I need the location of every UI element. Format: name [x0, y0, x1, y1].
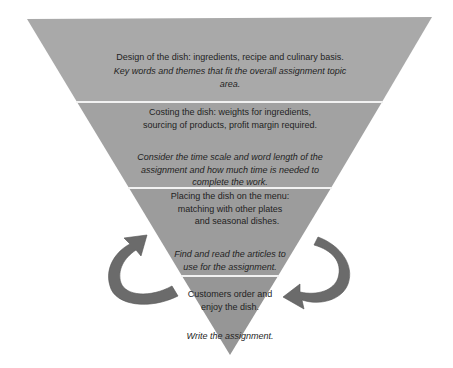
- level-1-note-line: area.: [80, 78, 380, 91]
- level-1-heading: Design of the dish: ingredients, recipe …: [60, 51, 400, 64]
- level-2-note-line: assignment and how much time is needed t…: [100, 164, 360, 177]
- level-4-note: Write the assignment.: [160, 330, 300, 343]
- level-1-note-line: Key words and themes that fit the overal…: [80, 65, 380, 78]
- level-3-note-line: use for the assignment.: [150, 261, 310, 274]
- level-2-heading-line: Costing the dish: weights for ingredient…: [80, 106, 380, 119]
- level-3-heading-line: and seasonal dishes.: [150, 215, 310, 228]
- level-2-heading: Costing the dish: weights for ingredient…: [80, 106, 380, 131]
- level-2-note-line: Consider the time scale and word length …: [100, 151, 360, 164]
- level-3-heading-line: Placing the dish on the menu:: [150, 190, 310, 203]
- level-4-heading-line: enjoy the dish.: [170, 301, 290, 314]
- level-2-heading-line: sourcing of products, profit margin requ…: [80, 119, 380, 132]
- level-1-note: Key words and themes that fit the overal…: [80, 65, 380, 90]
- level-3-heading: Placing the dish on the menu: matching w…: [150, 190, 310, 228]
- level-3-heading-line: matching with other plates: [150, 203, 310, 216]
- level-3-note-line: Find and read the articles to: [150, 248, 310, 261]
- level-4-heading: Customers order and enjoy the dish.: [170, 288, 290, 313]
- level-2-note-line: complete the work.: [100, 176, 360, 189]
- inverted-pyramid-diagram: Design of the dish: ingredients, recipe …: [0, 0, 453, 368]
- level-4-heading-line: Customers order and: [170, 288, 290, 301]
- level-3-note: Find and read the articles to use for th…: [150, 248, 310, 273]
- level-2-note: Consider the time scale and word length …: [100, 151, 360, 189]
